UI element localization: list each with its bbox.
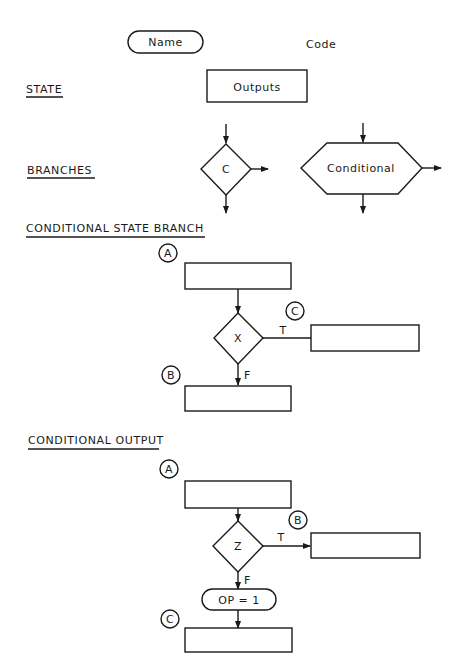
co-output-oval: OP = 1 <box>202 589 276 610</box>
svg-text:A: A <box>165 463 173 476</box>
code-label: Code <box>306 38 336 51</box>
svg-text:B: B <box>167 369 175 382</box>
co-state-box-bottom <box>185 628 292 652</box>
csb-connector-c: C <box>286 302 304 320</box>
svg-text:X: X <box>234 332 242 345</box>
branch-diamond: C <box>201 124 268 213</box>
csb-connector-b: B <box>162 366 180 384</box>
co-heading: CONDITIONAL OUTPUT <box>28 434 164 447</box>
co-state-box-top <box>185 481 291 508</box>
co-false-label: F <box>244 574 251 587</box>
csb-connector-a: A <box>159 244 177 262</box>
svg-text:A: A <box>164 247 172 260</box>
csb-state-box-right <box>311 325 419 351</box>
svg-text:B: B <box>294 514 302 527</box>
co-connector-c: C <box>161 610 179 628</box>
svg-text:Z: Z <box>234 540 242 553</box>
state-box: Outputs <box>207 70 307 102</box>
svg-text:C: C <box>291 305 299 318</box>
state-heading: STATE <box>26 83 62 96</box>
branch-diamond-label: C <box>222 163 230 176</box>
co-decision: Z <box>213 521 263 572</box>
co-state-box-right <box>311 533 420 558</box>
co-connector-b: B <box>289 511 307 529</box>
csb-heading: CONDITIONAL STATE BRANCH <box>26 222 204 235</box>
svg-text:C: C <box>166 613 174 626</box>
csb-false-label: F <box>244 369 251 382</box>
co-true-label: T <box>276 531 284 544</box>
svg-text:OP = 1: OP = 1 <box>218 594 260 607</box>
csb-decision: X <box>214 313 263 364</box>
csb-state-box-top <box>185 263 291 289</box>
branch-hex-label: Conditional <box>327 162 395 175</box>
name-terminator: Name <box>128 31 203 53</box>
name-label: Name <box>148 36 182 49</box>
branch-hexagon: Conditional <box>301 123 441 213</box>
csb-true-label: T <box>278 324 286 337</box>
co-connector-a: A <box>160 460 178 478</box>
branches-heading: BRANCHES <box>27 164 92 177</box>
csb-state-box-bottom <box>185 386 291 411</box>
outputs-label: Outputs <box>233 81 280 94</box>
